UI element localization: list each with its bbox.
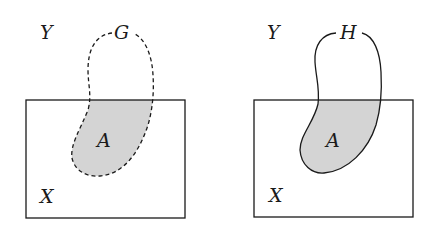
- label-g: G: [114, 21, 129, 43]
- panel-left: Y G A X: [26, 21, 185, 218]
- region-a-fill-left: [72, 33, 154, 176]
- label-h: H: [339, 21, 357, 43]
- diagram-canvas: Y G A X Y H A X: [0, 0, 435, 232]
- region-a-fill-right: [300, 33, 381, 173]
- label-a-left: A: [95, 129, 111, 151]
- label-x-right: X: [267, 184, 284, 206]
- label-a-right: A: [324, 129, 340, 151]
- label-y-left: Y: [40, 21, 55, 43]
- panel-right: Y H A X: [254, 21, 413, 217]
- label-y-right: Y: [267, 21, 282, 43]
- label-x-left: X: [38, 185, 55, 207]
